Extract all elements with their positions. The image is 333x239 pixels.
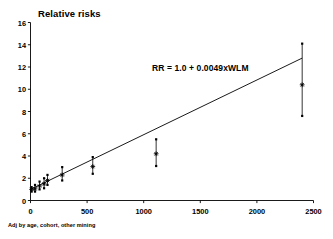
y-axis-tick-label: 16 (4, 18, 26, 27)
error-bar-cap-lower (46, 184, 48, 186)
error-bar-cap-lower (301, 115, 303, 117)
error-bar-cap-upper (155, 138, 157, 140)
x-axis-tick-label: 1000 (135, 207, 151, 216)
chart-footnote: Adj by age, cohort, other mining (8, 222, 95, 228)
x-axis-tick-label: 0 (28, 207, 32, 216)
error-bar-cap-upper (46, 174, 48, 176)
error-bar-cap-upper (38, 180, 40, 182)
error-bar-cap-lower (155, 165, 157, 167)
plot-area (0, 0, 333, 239)
error-bar-cap-lower (61, 179, 63, 181)
x-axis-tick-label: 2000 (249, 207, 265, 216)
data-point-group (60, 166, 65, 182)
y-axis-tick-label: 14 (4, 40, 26, 49)
data-point-group (29, 186, 34, 193)
y-axis-tick-label: 4 (4, 152, 26, 161)
x-axis-tick-label: 500 (81, 207, 93, 216)
error-bar-cap-lower (92, 173, 94, 175)
error-bar-cap-lower (38, 188, 40, 190)
error-bar-cap-lower (43, 187, 45, 189)
y-axis-tick-label: 6 (4, 129, 26, 138)
regression-fit-line (31, 58, 303, 189)
error-bar-cap-upper (34, 184, 36, 186)
data-point-group (154, 138, 159, 167)
y-axis-tick-label: 2 (4, 174, 26, 183)
y-axis-tick-label: 12 (4, 63, 26, 72)
y-axis-tick-label: 10 (4, 85, 26, 94)
regression-equation-annotation: RR = 1.0 + 0.0049xWLM (152, 63, 249, 73)
relative-risks-chart: Relative risks RR = 1.0 + 0.0049xWLM Adj… (0, 0, 333, 239)
y-axis-tick-label: 8 (4, 107, 26, 116)
x-axis-tick-label: 1500 (192, 207, 208, 216)
error-bar-cap-upper (43, 177, 45, 179)
y-axis-tick-label: 0 (4, 196, 26, 205)
error-bar-cap-upper (92, 156, 94, 158)
page-title: Relative risks (38, 8, 101, 19)
data-point-group (300, 43, 305, 118)
error-bar-cap-upper (61, 166, 63, 168)
error-bar-cap-upper (301, 43, 303, 45)
x-axis-tick-label: 2500 (305, 207, 321, 216)
